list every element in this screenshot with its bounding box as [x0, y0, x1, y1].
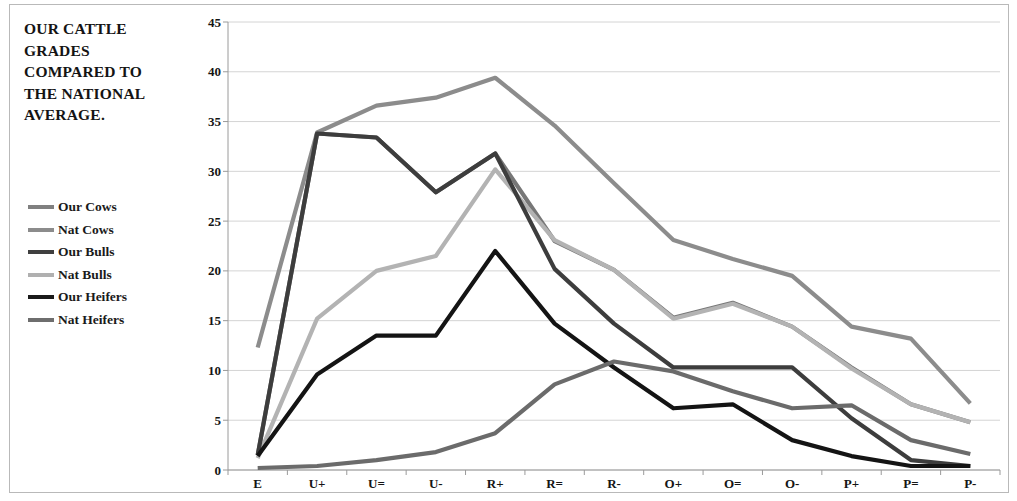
- y-tick-label: 40: [208, 64, 221, 79]
- legend-swatch-icon: [28, 295, 54, 299]
- x-tick-label: P-: [964, 476, 976, 491]
- y-tick-label: 5: [215, 413, 222, 428]
- legend-item[interactable]: Nat Heifers: [28, 309, 173, 332]
- y-tick-labels: 051015202530354045: [208, 15, 222, 478]
- legend-item[interactable]: Our Cows: [28, 196, 173, 219]
- x-tick-label: R=: [546, 476, 563, 491]
- x-tick-label: E: [253, 476, 262, 491]
- x-tick-label: O-: [785, 476, 799, 491]
- series-lines-group: [258, 78, 971, 468]
- chart-page: OUR CATTLE GRADES COMPARED TO THE NATION…: [0, 0, 1017, 501]
- series-line-our-heifers: [258, 251, 971, 466]
- y-tick-label: 30: [208, 164, 221, 179]
- x-tick-labels: EU+U=U-R+R=R-O+O=O-P+P=P-: [253, 476, 976, 491]
- y-tick-label: 45: [208, 15, 222, 30]
- chart-title: OUR CATTLE GRADES COMPARED TO THE NATION…: [24, 18, 164, 126]
- x-tick-label: U+: [309, 476, 326, 491]
- x-tick-label: O+: [665, 476, 683, 491]
- x-tick-label: O=: [724, 476, 742, 491]
- series-line-nat-cows: [258, 78, 971, 404]
- series-line-nat-bulls: [258, 169, 971, 458]
- chart-legend: Our CowsNat CowsOur BullsNat BullsOur He…: [28, 196, 173, 331]
- x-tick-label: R-: [607, 476, 621, 491]
- x-tick-label: U-: [429, 476, 443, 491]
- x-tick-label: U=: [368, 476, 385, 491]
- legend-item-label: Our Heifers: [58, 289, 127, 305]
- y-tick-label: 25: [208, 214, 222, 229]
- y-tick-label: 35: [208, 114, 222, 129]
- y-tick-label: 0: [215, 463, 222, 478]
- legend-item[interactable]: Nat Cows: [28, 219, 173, 242]
- chart-left-panel: OUR CATTLE GRADES COMPARED TO THE NATION…: [19, 10, 169, 480]
- legend-swatch-icon: [28, 250, 54, 254]
- legend-swatch-icon: [28, 228, 54, 232]
- tickmarks-group: [223, 22, 1000, 475]
- legend-item-label: Nat Bulls: [58, 267, 112, 283]
- x-tick-label: R+: [487, 476, 504, 491]
- legend-swatch-icon: [28, 205, 54, 209]
- y-tick-label: 10: [208, 363, 221, 378]
- legend-item[interactable]: Our Heifers: [28, 286, 173, 309]
- x-tick-label: P=: [903, 476, 918, 491]
- gridlines-group: [228, 22, 1000, 470]
- legend-item[interactable]: Nat Bulls: [28, 264, 173, 287]
- y-tick-label: 15: [208, 313, 222, 328]
- plot-area: 051015202530354045 EU+U=U-R+R=R-O+O=O-P+…: [190, 4, 1009, 493]
- legend-swatch-icon: [28, 273, 54, 277]
- legend-item[interactable]: Our Bulls: [28, 241, 173, 264]
- y-tick-label: 20: [208, 263, 221, 278]
- legend-item-label: Our Cows: [58, 199, 117, 215]
- line-chart-svg: 051015202530354045 EU+U=U-R+R=R-O+O=O-P+…: [190, 4, 1009, 493]
- legend-swatch-icon: [28, 318, 54, 322]
- legend-item-label: Nat Heifers: [58, 312, 124, 328]
- x-tick-label: P+: [844, 476, 859, 491]
- legend-item-label: Nat Cows: [58, 222, 114, 238]
- legend-item-label: Our Bulls: [58, 244, 114, 260]
